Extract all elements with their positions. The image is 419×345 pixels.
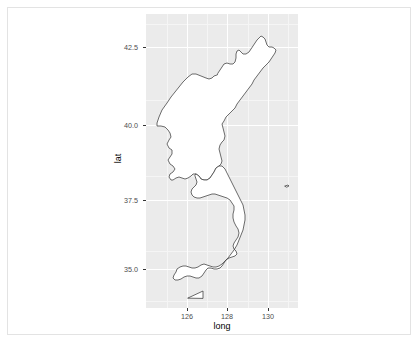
tick-mark-y-37-5 (143, 200, 146, 201)
tick-label-y-40-0: 40.0 (124, 122, 138, 129)
ulleungdo-island-polygon (285, 185, 289, 187)
tick-mark-y-42-5 (143, 47, 146, 48)
tick-label-y-35-0: 35.0 (124, 266, 138, 273)
tick-label-x-126: 126 (172, 313, 202, 320)
tick-label-x-130: 130 (253, 313, 283, 320)
tick-mark-x-128 (227, 308, 228, 311)
map-polygons (157, 36, 289, 298)
figure-canvas: 42.5 40.0 37.5 35.0 126 128 130 long lat (0, 0, 419, 345)
tick-label-x-128: 128 (212, 313, 242, 320)
tick-label-y-42-5: 42.5 (124, 44, 138, 51)
tick-mark-y-40-0 (143, 125, 146, 126)
tick-mark-x-126 (187, 308, 188, 311)
axis-title-x: long (146, 322, 298, 331)
south-korea-polygon (173, 166, 245, 280)
tick-mark-y-35-0 (143, 269, 146, 270)
jeju-island-polygon (188, 291, 203, 298)
tick-mark-x-130 (268, 308, 269, 311)
korea-map-svg (146, 14, 298, 308)
north-korea-polygon (157, 36, 276, 180)
axis-title-y: lat (114, 146, 123, 172)
plot-panel (146, 14, 298, 308)
plot-area: 42.5 40.0 37.5 35.0 126 128 130 long lat (0, 0, 419, 345)
tick-label-y-37-5: 37.5 (124, 197, 138, 204)
